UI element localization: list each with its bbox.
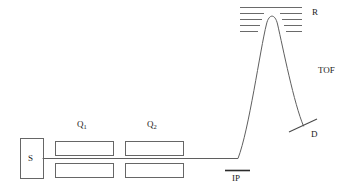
quadrupole-1-label-subscript: 1 [84, 123, 87, 130]
quadrupole-1-label-main: Q [77, 119, 84, 129]
quadrupole-2-label-main: Q [147, 119, 154, 129]
schematic-svg [0, 0, 352, 193]
detector-label: D [311, 130, 318, 139]
interaction-point-label: IP [232, 174, 240, 183]
quadrupole-1-upper-plate [56, 142, 114, 156]
quadrupole-2-label-subscript: 2 [154, 123, 157, 130]
reflectron-label: R [312, 8, 318, 17]
source-label: S [28, 154, 33, 163]
quadrupole-1-label: Q1 [77, 120, 87, 129]
quadrupole-1-lower-plate [56, 164, 114, 178]
ion-beam-trajectory [43, 16, 304, 158]
quadrupole-2-upper-plate [126, 142, 184, 156]
diagram-canvas: S Q1 Q2 IP R TOF D [0, 0, 352, 193]
quadrupole-2-lower-plate [126, 164, 184, 178]
time-of-flight-label: TOF [318, 66, 335, 75]
quadrupole-2-label: Q2 [147, 120, 157, 129]
